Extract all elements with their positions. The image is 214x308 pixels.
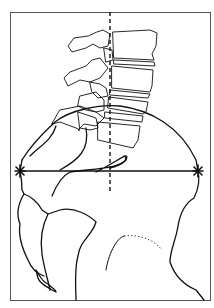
left-star-marker [15, 165, 25, 177]
diagram-figure [0, 0, 214, 308]
spine-pelvis-illustration [0, 0, 214, 308]
right-star-marker [193, 165, 203, 177]
